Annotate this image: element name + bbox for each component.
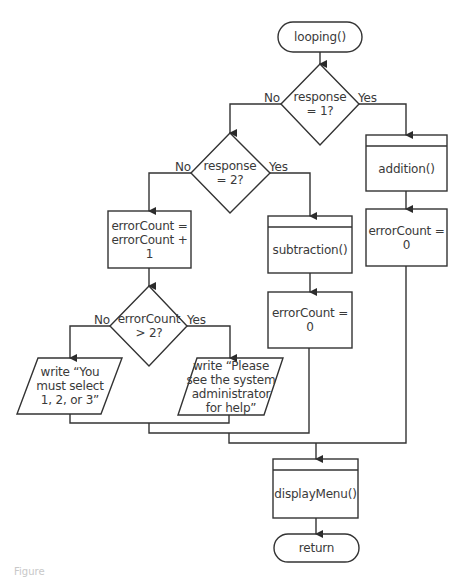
subtraction-label: subtraction(): [268, 227, 352, 273]
increment-label: errorCount = errorCount + 1: [108, 211, 191, 268]
d1-yes-label: Yes: [358, 92, 377, 104]
figure-caption: Figure: [14, 566, 45, 577]
decision1-label: response = 1?: [285, 84, 355, 124]
reset-mid-label: errorCount = 0: [268, 292, 352, 348]
start-label: looping(): [278, 22, 362, 52]
reset-right-label: errorCount = 0: [366, 209, 447, 266]
d3-yes-label: Yes: [187, 314, 206, 326]
d1-no-label: No: [264, 92, 280, 104]
decision2-label: response = 2?: [195, 153, 265, 193]
end-label: return: [274, 534, 359, 562]
addition-label: addition(): [366, 146, 447, 191]
write-select-label: write “You must select 1, 2, or 3”: [25, 358, 115, 414]
decision3-label: errorCount > 2?: [112, 306, 186, 346]
d2-no-label: No: [175, 161, 191, 173]
d2-yes-label: Yes: [269, 161, 288, 173]
write-admin-label: write “Please see the system administrat…: [184, 358, 278, 415]
display-menu-label: displayMenu(): [273, 470, 358, 518]
d3-no-label: No: [94, 314, 110, 326]
